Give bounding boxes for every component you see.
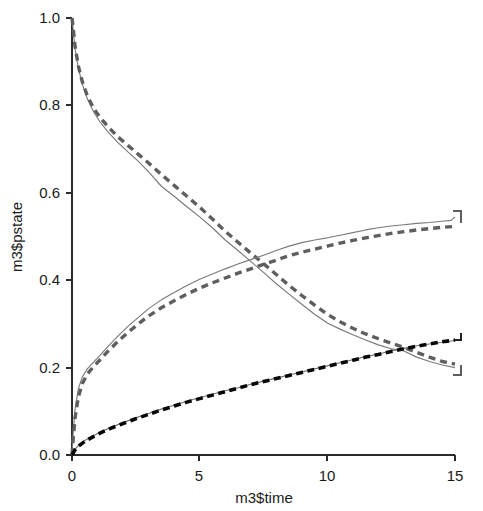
y-tick-label: 0.0 [39, 446, 60, 463]
y-tick-label: 0.4 [39, 271, 60, 288]
end-marker-group [453, 211, 461, 375]
x-axis-title: m3$time [235, 489, 293, 506]
x-tick-label: 10 [319, 467, 336, 484]
series-state-3-model [72, 340, 455, 455]
series-state-1-model [72, 18, 455, 364]
y-tick-marks [66, 18, 72, 455]
x-tick-label: 15 [447, 467, 464, 484]
series-state-1-empirical [72, 18, 455, 368]
end-marker-state-1 [453, 365, 461, 375]
end-marker-state-3-model [455, 333, 461, 340]
chart-canvas: 1.0 0.8 0.6 0.4 0.2 0.0 0 5 10 15 m3$tim… [0, 0, 483, 511]
y-tick-label: 1.0 [39, 9, 60, 26]
x-tick-marks [72, 455, 455, 461]
axis-group [66, 18, 455, 461]
x-tick-label: 0 [68, 467, 76, 484]
series-state-3-empirical [72, 341, 455, 455]
series-group [72, 18, 455, 455]
x-tick-labels: 0 5 10 15 [68, 467, 464, 484]
y-tick-label: 0.6 [39, 184, 60, 201]
chart-container: 1.0 0.8 0.6 0.4 0.2 0.0 0 5 10 15 m3$tim… [0, 0, 483, 511]
y-tick-label: 0.8 [39, 96, 60, 113]
y-tick-label: 0.2 [39, 359, 60, 376]
y-axis-title: m3$pstate [8, 202, 25, 272]
x-tick-label: 5 [195, 467, 203, 484]
y-tick-labels: 1.0 0.8 0.6 0.4 0.2 0.0 [39, 9, 60, 463]
series-state-2-empirical [72, 217, 455, 455]
